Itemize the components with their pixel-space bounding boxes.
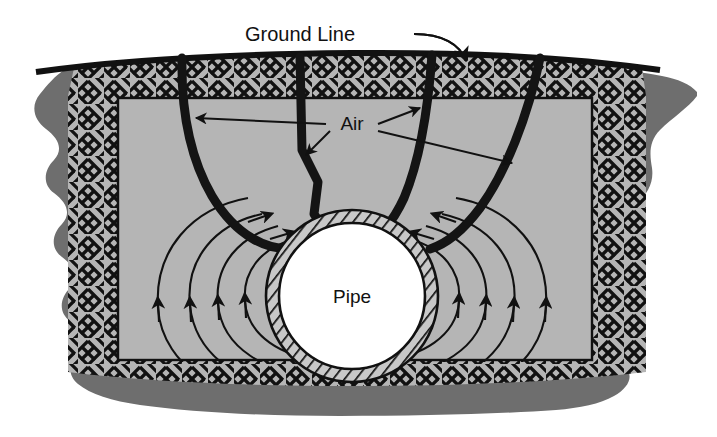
ground-line-label: Ground Line	[245, 23, 355, 45]
flow-arrow	[245, 298, 246, 318]
flow-arrow	[190, 302, 191, 322]
flow-arrow	[218, 300, 219, 320]
flow-arrow	[513, 302, 514, 322]
diagram-root: Pipe Ground Line Air	[0, 0, 717, 437]
pipe-group: Pipe	[266, 210, 438, 382]
flow-arrow	[545, 302, 546, 322]
flow-arrow	[485, 300, 486, 320]
pipe-label: Pipe	[333, 286, 371, 307]
flow-arrow	[458, 298, 459, 318]
pipe-trench-diagram: Pipe Ground Line Air	[0, 0, 717, 437]
air-label: Air	[340, 113, 364, 134]
flow-arrow	[158, 302, 159, 322]
